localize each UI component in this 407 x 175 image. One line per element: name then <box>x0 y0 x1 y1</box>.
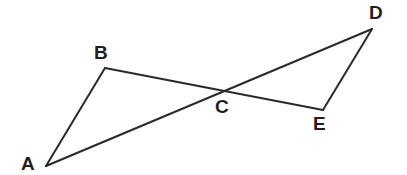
vertex-label-c: C <box>215 97 229 116</box>
segment-de <box>323 29 372 110</box>
vertex-label-b: B <box>94 43 108 62</box>
segment-ab <box>46 68 105 166</box>
segment-be <box>105 68 323 110</box>
vertex-label-e: E <box>313 114 326 133</box>
figure-canvas <box>0 0 407 175</box>
top-edge-artifact: ... <box>115 0 131 5</box>
vertex-label-a: A <box>21 154 35 173</box>
vertex-label-d: D <box>369 3 383 22</box>
geometry-diagram: ... ABCDE <box>0 0 407 175</box>
